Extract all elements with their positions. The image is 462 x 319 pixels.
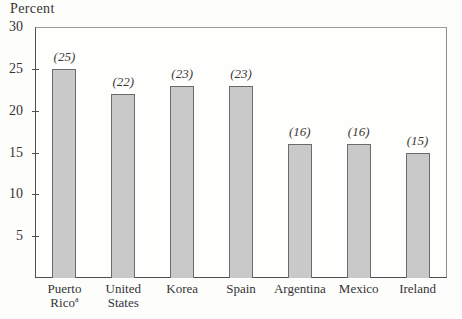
bar-united-states	[111, 94, 135, 278]
y-tick-mark	[32, 111, 39, 112]
bar-argentina	[288, 144, 312, 278]
y-tick-mark	[32, 236, 39, 237]
y-axis-title: Percent	[10, 1, 55, 17]
y-tick-label: 15	[0, 145, 23, 161]
x-tick-label: Ireland	[382, 282, 454, 296]
y-tick-label: 30	[0, 19, 23, 35]
bar-mexico	[347, 144, 371, 278]
y-tick-label: 5	[0, 228, 23, 244]
footnote-marker: a	[75, 295, 79, 304]
bar-value-label: (23)	[152, 67, 212, 81]
x-tick-label-line: Ireland	[382, 282, 454, 296]
y-tick-label: 25	[0, 61, 23, 77]
bar-value-label: (25)	[34, 50, 94, 64]
bar-ireland	[406, 153, 430, 279]
bar-value-label: (16)	[270, 125, 330, 139]
y-tick-mark	[32, 153, 39, 154]
bar-korea	[170, 86, 194, 278]
bar-puerto-rico	[52, 69, 76, 278]
y-tick-label: 10	[0, 186, 23, 202]
bar-value-label: (22)	[93, 75, 153, 89]
y-tick-label: 20	[0, 103, 23, 119]
bar-value-label: (15)	[388, 134, 448, 148]
bar-chart-figure: Percent 30252015105 (25)(22)(23)(23)(16)…	[0, 0, 462, 319]
x-tick-label-line: States	[87, 296, 159, 310]
y-tick-mark	[32, 69, 39, 70]
bar-value-label: (16)	[329, 125, 389, 139]
y-tick-mark	[32, 194, 39, 195]
bar-value-label: (23)	[211, 67, 271, 81]
bar-spain	[229, 86, 253, 278]
